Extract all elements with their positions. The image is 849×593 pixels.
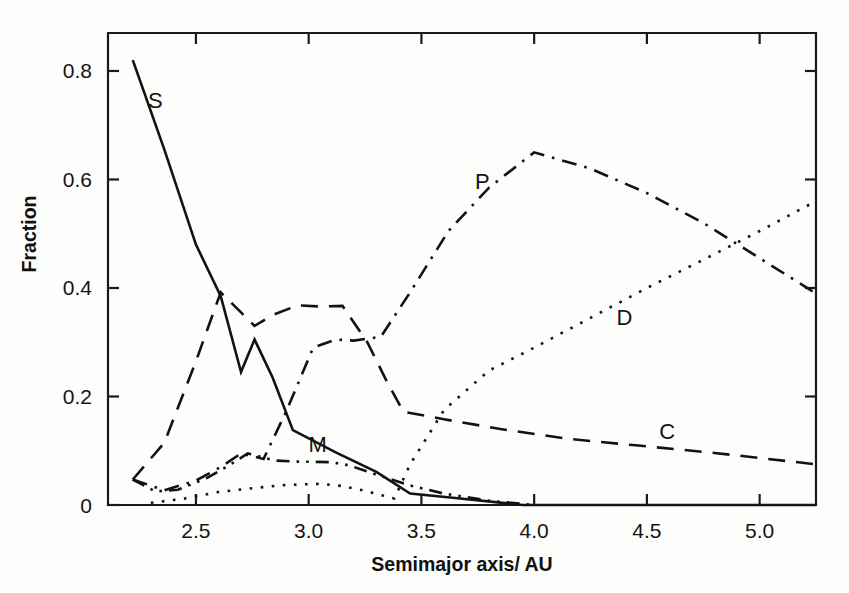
x-axis-title: Semimajor axis/ AU xyxy=(371,553,552,575)
x-tick-label-1: 3.0 xyxy=(294,519,323,542)
series-label-P: P xyxy=(475,169,490,194)
data-series-group xyxy=(133,60,816,505)
series-line-M xyxy=(133,453,534,505)
x-tick-label-4: 4.5 xyxy=(632,519,661,542)
y-tick-label-1: 0.2 xyxy=(63,385,92,408)
y-tick-label-0: 0 xyxy=(80,494,92,517)
y-tick-label-2: 0.4 xyxy=(63,276,93,299)
x-tick-label-3: 4.0 xyxy=(520,519,549,542)
chart-canvas: 00.20.40.60.82.53.03.54.04.55.0 SCPDM Se… xyxy=(0,0,849,593)
series-line-C xyxy=(133,292,816,479)
series-label-D: D xyxy=(616,305,632,330)
x-tick-label-0: 2.5 xyxy=(181,519,210,542)
series-label-M: M xyxy=(309,432,327,457)
y-axis-title: Fraction xyxy=(18,196,40,273)
series-line-S xyxy=(133,60,816,505)
x-tick-label-2: 3.5 xyxy=(407,519,436,542)
x-tick-label-5: 5.0 xyxy=(745,519,774,542)
y-tick-label-3: 0.6 xyxy=(63,168,92,191)
y-tick-label-4: 0.8 xyxy=(63,59,92,82)
series-label-C: C xyxy=(659,419,675,444)
series-labels-group: SCPDM xyxy=(148,88,675,458)
tick-labels-group: 00.20.40.60.82.53.03.54.04.55.0 xyxy=(63,59,774,542)
plot-frame xyxy=(108,33,816,505)
figure-container: 00.20.40.60.82.53.03.54.04.55.0 SCPDM Se… xyxy=(0,0,849,593)
axes-group xyxy=(108,33,816,505)
tick-marks-group xyxy=(108,33,816,505)
series-line-P xyxy=(133,152,816,490)
series-label-S: S xyxy=(148,88,163,113)
